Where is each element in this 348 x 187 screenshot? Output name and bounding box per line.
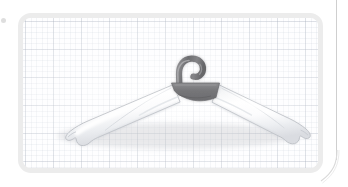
hanger-illustration: [23, 18, 318, 168]
image-frame: [18, 13, 323, 173]
page-edge-rule: [336, 0, 337, 160]
page-corner-curve: [316, 150, 348, 187]
page-edge-speck: [1, 18, 6, 23]
screenshot-stage: [0, 0, 348, 187]
